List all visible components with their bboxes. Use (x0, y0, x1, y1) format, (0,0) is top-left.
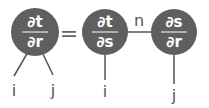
leg-label-rhs-j: j (171, 86, 176, 105)
equals-sign: = (60, 21, 78, 46)
leg-label-mid-i: i (103, 82, 107, 101)
edge-label-n: n (134, 11, 144, 30)
node-lhs-numerator: ∂t (27, 13, 42, 31)
node-rhs: ∂s ∂r (151, 9, 197, 55)
leg-label-lhs-j: j (50, 81, 55, 100)
node-rhs-denominator: ∂r (166, 33, 182, 51)
node-mid: ∂t ∂s (82, 9, 128, 55)
node-lhs-denominator: ∂r (27, 33, 43, 51)
node-lhs: ∂t ∂r (11, 8, 59, 56)
node-rhs-numerator: ∂s (165, 13, 182, 31)
leg-line-i (14, 52, 28, 76)
leg-line-j (42, 52, 53, 75)
node-mid-denominator: ∂s (96, 33, 113, 51)
leg-label-lhs-i: i (12, 81, 16, 100)
node-mid-numerator: ∂t (97, 13, 112, 31)
tensor-diagram: ∂t ∂r = ∂t ∂s ∂s ∂r n i j i j (0, 0, 209, 108)
